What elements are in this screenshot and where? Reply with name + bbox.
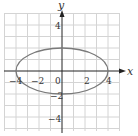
x-tick-4: 4: [106, 76, 112, 86]
x-axis-label: x: [127, 65, 134, 78]
y-tick-4: 4: [55, 21, 61, 31]
chart-canvas: x y −4 −2 0 2 4 4 −2 −4: [0, 0, 138, 136]
x-axis-arrow-icon: [119, 69, 126, 74]
x-tick-neg4: −4: [9, 76, 23, 86]
y-tick-neg2: −2: [50, 91, 63, 101]
origin-label: 0: [55, 76, 61, 86]
y-axis-label: y: [57, 0, 65, 12]
x-tick-neg2: −2: [31, 76, 44, 86]
y-tick-neg4: −4: [48, 114, 62, 124]
x-tick-2: 2: [84, 76, 90, 86]
